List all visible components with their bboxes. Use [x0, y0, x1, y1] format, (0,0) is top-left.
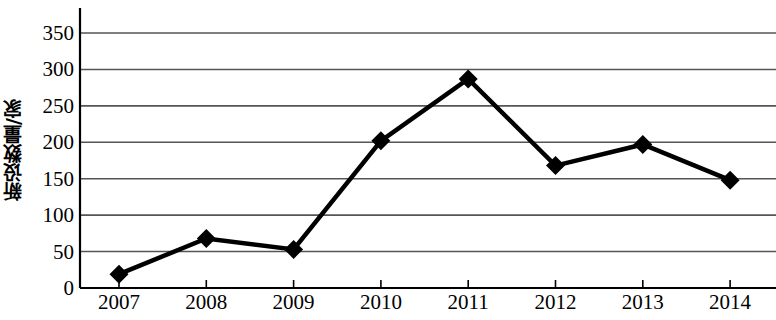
x-axis-tick-label: 2007	[98, 292, 140, 313]
data-point-marker: 2013: 197	[633, 135, 652, 154]
data-point-marker: 2007: 19	[110, 265, 129, 284]
x-axis-tick-labels: 20072008200920102011201220132014	[0, 292, 776, 320]
x-axis-tick-label: 2008	[185, 292, 227, 313]
plot-area: 2007: 192008: 682009: 532010: 2022011: 2…	[0, 0, 776, 320]
x-axis-tick-label: 2014	[709, 292, 751, 313]
x-axis-tick-label: 2009	[273, 292, 315, 313]
line-chart: 新设数量/家 050100150200250300350 2007: 19200…	[0, 0, 776, 320]
x-axis-tick-label: 2011	[448, 292, 489, 313]
data-point-marker: 2014: 148	[721, 171, 740, 190]
gridlines	[80, 33, 776, 252]
x-axis-tick-label: 2010	[360, 292, 402, 313]
x-axis-tick-label: 2012	[535, 292, 577, 313]
data-point-marker: 2008: 68	[197, 229, 216, 248]
series-line	[119, 79, 730, 274]
x-axis-ticks	[119, 280, 730, 288]
x-axis-tick-label: 2013	[622, 292, 664, 313]
data-line	[119, 79, 730, 274]
